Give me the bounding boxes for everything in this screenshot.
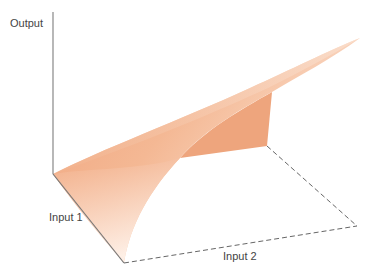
input1-axis-label: Input 1 <box>49 211 83 223</box>
input2-axis-label: Input 2 <box>223 250 257 262</box>
output-axis-label: Output <box>10 17 43 29</box>
back-dashed-edge <box>267 146 357 226</box>
production-surface-diagram <box>0 0 372 279</box>
